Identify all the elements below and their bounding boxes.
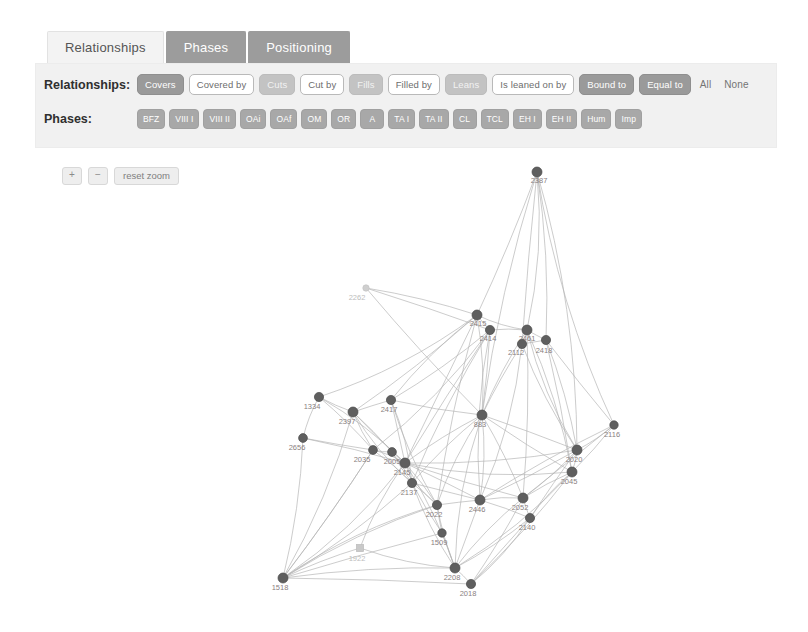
graph-node-marker[interactable] [386, 395, 395, 404]
tab-positioning[interactable]: Positioning [248, 31, 350, 63]
graph-node-label: 2052 [512, 503, 529, 512]
graph-node-marker[interactable] [475, 495, 485, 505]
graph-node-marker[interactable] [541, 335, 550, 344]
graph-node[interactable]: 2418 [536, 335, 553, 355]
phase-chip-eh-ii[interactable]: EH II [546, 109, 577, 129]
graph-edge [283, 412, 353, 578]
relationship-chip-cut-by[interactable]: Cut by [300, 74, 344, 95]
phase-chip-ta-ii[interactable]: TA II [419, 109, 448, 129]
graph-node[interactable]: 2137 [401, 478, 418, 497]
graph-edge [405, 463, 572, 475]
graph-edge [353, 315, 477, 412]
graph-node-marker[interactable] [438, 529, 446, 537]
phase-chip-oai[interactable]: OAi [240, 109, 266, 129]
graph-node-marker[interactable] [356, 544, 363, 551]
graph-node-marker[interactable] [432, 500, 441, 509]
graph-node-marker[interactable] [477, 410, 487, 420]
phase-chip-tcl[interactable]: TCL [481, 109, 509, 129]
phase-chip-om[interactable]: OM [301, 109, 327, 129]
graph-node-label: 2397 [339, 417, 356, 426]
graph-node-marker[interactable] [525, 513, 534, 522]
graph-node[interactable]: 2415 [470, 310, 487, 328]
graph-node-marker[interactable] [450, 563, 460, 573]
graph-node-label: 2417 [381, 405, 398, 414]
graph-node[interactable]: 2005 [384, 448, 401, 466]
graph-node-marker[interactable] [299, 434, 308, 443]
graph-node-marker[interactable] [610, 421, 618, 429]
graph-node-label: 1518 [272, 583, 289, 592]
graph-node-marker[interactable] [388, 448, 397, 457]
tab-relationships[interactable]: Relationships [47, 31, 164, 63]
select-none-button[interactable]: None [720, 75, 752, 94]
graph-edge [537, 172, 614, 425]
graph-edge [303, 438, 373, 450]
graph-edge [283, 505, 437, 578]
graph-node[interactable]: 1518 [272, 573, 289, 592]
graph-node[interactable]: 2018 [460, 579, 477, 598]
phase-chip-viii-i[interactable]: VIII I [169, 109, 199, 129]
graph-edge [283, 505, 437, 578]
graph-edge [319, 397, 353, 412]
relationship-chip-covered-by[interactable]: Covered by [189, 74, 255, 95]
graph-canvas[interactable]: 2387226224152414246121122418133423972417… [0, 150, 808, 632]
phase-chip-viii-ii[interactable]: VIII II [203, 109, 236, 129]
graph-node[interactable]: 2208 [444, 563, 461, 582]
graph-node-marker[interactable] [369, 446, 378, 455]
relationship-chip-filled-by[interactable]: Filled by [388, 74, 440, 95]
graph-node-marker[interactable] [400, 458, 410, 468]
graph-node[interactable]: 1922 [349, 544, 366, 563]
phase-chip-cl[interactable]: CL [453, 109, 477, 129]
relationship-chip-leans[interactable]: Leans [445, 74, 487, 95]
graph-node-marker[interactable] [466, 579, 475, 588]
app-root: Relationships Phases Positioning Relatio… [0, 0, 808, 632]
select-all-button[interactable]: All [696, 75, 715, 94]
graph-node[interactable]: 2140 [519, 513, 536, 532]
graph-node-label: 2262 [349, 293, 366, 302]
tab-phases[interactable]: Phases [166, 31, 247, 63]
graph-edge [373, 330, 490, 450]
phases-filter-label: Phases: [36, 112, 137, 126]
graph-node-marker[interactable] [363, 285, 369, 291]
relationship-chip-is-leaned-on-by[interactable]: Is leaned on by [492, 74, 574, 95]
graph-node[interactable]: 2397 [339, 407, 358, 426]
phase-chip-hum[interactable]: Hum [581, 109, 611, 129]
phase-chip-or[interactable]: OR [331, 109, 356, 129]
graph-node[interactable]: 2116 [604, 421, 620, 439]
graph-edge [482, 172, 537, 415]
graph-node-marker[interactable] [348, 407, 358, 417]
graph-node-label: 2020 [566, 455, 583, 464]
phase-chip-imp[interactable]: Imp [615, 109, 641, 129]
graph-node-marker[interactable] [314, 392, 323, 401]
relationship-chip-equal-to[interactable]: Equal to [639, 74, 691, 95]
graph-node[interactable]: 2387 [531, 167, 548, 185]
phase-chip-ta-i[interactable]: TA I [388, 109, 415, 129]
graph-node-marker[interactable] [278, 573, 288, 583]
phase-chip-eh-i[interactable]: EH I [513, 109, 542, 129]
relationship-chip-covers[interactable]: Covers [137, 74, 184, 95]
graph-node-marker[interactable] [572, 445, 582, 455]
graph-node[interactable]: 2656 [289, 434, 308, 452]
graph-node-marker[interactable] [518, 493, 528, 503]
graph-node[interactable]: 883 [474, 410, 487, 429]
relationship-graph[interactable]: 2387226224152414246121122418133423972417… [0, 150, 808, 632]
graph-node-marker[interactable] [407, 478, 416, 487]
graph-edge [537, 172, 577, 450]
relationship-chip-cuts[interactable]: Cuts [259, 74, 295, 95]
graph-node[interactable]: 2417 [381, 395, 398, 414]
graph-node-label: 2035 [354, 455, 371, 464]
relationship-chip-bound-to[interactable]: Bound to [579, 74, 634, 95]
graph-node[interactable]: 2414 [480, 325, 497, 343]
graph-node[interactable]: 2262 [349, 285, 370, 302]
graph-edge [319, 315, 477, 397]
graph-node-label: 883 [474, 420, 487, 429]
phase-chip-a[interactable]: A [360, 109, 384, 129]
graph-node-label: 2414 [480, 334, 497, 343]
relationship-chip-group: CoversCovered byCutsCut byFillsFilled by… [137, 74, 758, 95]
phase-chip-bfz[interactable]: BFZ [137, 109, 165, 129]
graph-node-label: 2116 [604, 430, 620, 439]
relationship-chip-fills[interactable]: Fills [349, 74, 382, 95]
phase-chip-oaf[interactable]: OAf [270, 109, 297, 129]
graph-node[interactable]: 1334 [304, 392, 324, 411]
graph-node-marker[interactable] [567, 467, 577, 477]
graph-node[interactable]: 2112 [508, 339, 527, 357]
